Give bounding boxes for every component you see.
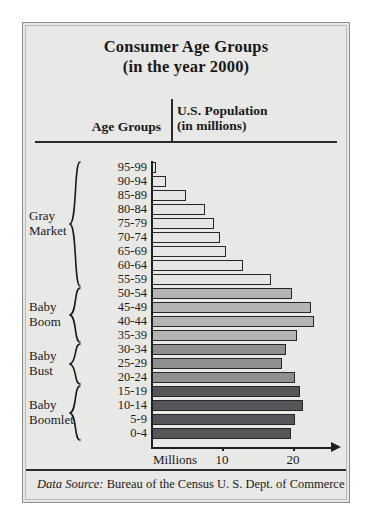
bar-row-label: 60-64: [81, 258, 147, 272]
bar: [152, 344, 286, 355]
footer-rule: [26, 469, 346, 471]
bar-row-label: 85-89: [81, 188, 147, 202]
chart-title: Consumer Age Groups (in the year 2000): [23, 37, 349, 77]
chart-figure: Consumer Age Groups (in the year 2000) A…: [22, 22, 350, 503]
bar-row: 60-64: [23, 259, 351, 273]
bar-row-label: 30-34: [81, 342, 147, 356]
bar: [152, 386, 300, 397]
bar-row: 35-39: [23, 329, 351, 343]
bar: [152, 372, 295, 383]
bar: [152, 428, 291, 439]
y-axis-line: [151, 161, 153, 448]
bar-row: 40-44: [23, 315, 351, 329]
bar: [152, 400, 303, 411]
bar-row: 95-99: [23, 161, 351, 175]
bar-row-label: 80-84: [81, 202, 147, 216]
bar: [152, 190, 186, 201]
bar: [152, 302, 311, 313]
bar-row: 20-24: [23, 371, 351, 385]
bar: [152, 414, 295, 425]
bar-row-label: 20-24: [81, 370, 147, 384]
bar-row: 10-14: [23, 399, 351, 413]
bar-row-label: 50-54: [81, 286, 147, 300]
bar: [152, 330, 297, 341]
bar-row-label: 70-74: [81, 230, 147, 244]
title-line-2: (in the year 2000): [23, 57, 349, 77]
bar-row: 50-54: [23, 287, 351, 301]
bar: [152, 260, 243, 271]
bar-row-label: 35-39: [81, 328, 147, 342]
x-axis-tick: [222, 447, 224, 451]
bar: [152, 176, 166, 187]
x-axis-tick: [293, 447, 295, 451]
bar: [152, 162, 156, 173]
bar: [152, 358, 282, 369]
bar-row-label: 5-9: [81, 412, 147, 426]
bar-row-label: 90-94: [81, 174, 147, 188]
data-source-note: Data Source: Bureau of the Census U. S. …: [37, 477, 337, 492]
bar-row-label: 25-29: [81, 356, 147, 370]
bar-row: 25-29: [23, 357, 351, 371]
bar: [152, 274, 271, 285]
x-axis-tick-label: 10: [216, 452, 229, 468]
bar-row-label: 40-44: [81, 314, 147, 328]
x-axis-tick-label: 20: [287, 452, 300, 468]
bar-row-label: 15-19: [81, 384, 147, 398]
bar-row: 55-59: [23, 273, 351, 287]
data-source-text: Bureau of the Census U. S. Dept. of Comm…: [104, 477, 345, 491]
bar-row: 75-79: [23, 217, 351, 231]
x-axis-unit-label: Millions: [153, 452, 197, 468]
bar: [152, 204, 205, 215]
column-header-population-line-1: U.S. Population: [177, 103, 347, 118]
bar-row-label: 10-14: [81, 398, 147, 412]
bar-row: 5-9: [23, 413, 351, 427]
bar-row: 80-84: [23, 203, 351, 217]
bar-row-label: 75-79: [81, 216, 147, 230]
bar-row: 45-49: [23, 301, 351, 315]
bar-row: 90-94: [23, 175, 351, 189]
bar: [152, 316, 314, 327]
header-divider: [171, 99, 173, 141]
bar-row: 30-34: [23, 343, 351, 357]
bar-row-label: 95-99: [81, 160, 147, 174]
bar-row-label: 65-69: [81, 244, 147, 258]
bar: [152, 218, 214, 229]
column-header-population: U.S. Population (in millions): [177, 103, 347, 133]
title-line-1: Consumer Age Groups: [23, 37, 349, 57]
bar: [152, 246, 226, 257]
header-rule: [35, 141, 337, 143]
bar-row-label: 45-49: [81, 300, 147, 314]
bar-row: 85-89: [23, 189, 351, 203]
x-axis-line: [151, 447, 337, 449]
data-source-label: Data Source:: [37, 477, 104, 491]
bar-row-label: 55-59: [81, 272, 147, 286]
bar-row-label: 0-4: [81, 426, 147, 440]
column-header-population-line-2: (in millions): [177, 118, 347, 133]
bar-row: 70-74: [23, 231, 351, 245]
x-axis-arrow-icon: [331, 442, 341, 452]
bar: [152, 288, 292, 299]
bar-plot: 95-9990-9485-8980-8475-7970-7465-6960-64…: [23, 161, 351, 451]
bar-row: 0-4: [23, 427, 351, 441]
bar-row: 65-69: [23, 245, 351, 259]
bar: [152, 232, 220, 243]
column-header-age-groups: Age Groups: [23, 119, 171, 135]
bar-row: 15-19: [23, 385, 351, 399]
